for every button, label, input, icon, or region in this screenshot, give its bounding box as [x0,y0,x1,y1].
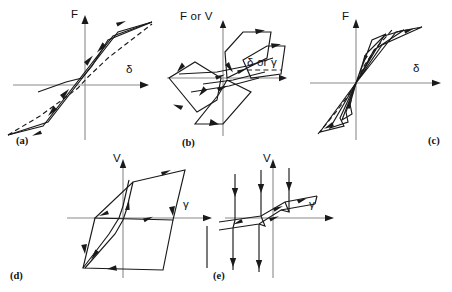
panel-a-y-axis-label: F [71,8,78,20]
panel-b-stiffness-degrading-hysteresis: F or V δ or γ (b) [155,0,305,150]
panel-a-x-axis-label: δ [126,63,133,75]
panel-d-main-loop [83,170,185,270]
panel-d-plot [55,150,235,292]
panel-c-pinched-origin-oriented-hysteresis: F δ (c) [300,0,452,150]
panel-c-x-axis-label: δ [413,62,420,74]
panel-e-label: (e) [213,270,225,281]
panel-a-backbone-dashed [8,24,152,135]
panel-d-inner-branch [83,180,133,268]
panel-c-direction-arrows [324,28,414,128]
panel-a-bilinear-hysteresis: F δ (a) [0,0,160,150]
panel-d-y-axis-label: V [113,152,121,164]
panel-b-lower-loop [169,62,221,112]
panel-c-upper-loops [356,27,422,83]
panel-a-plot [0,0,160,150]
panel-e-plot [225,150,415,292]
panel-b-y-axis-label: F or V [180,10,213,22]
hysteresis-figure: F δ (a) [0,0,452,292]
panel-b-label: (b) [182,137,195,148]
panel-b-plot [155,0,305,150]
panel-c-axes [310,19,441,140]
panel-d-x-axis-label: γ [183,198,189,210]
panel-e-x-axis-label: γ [309,198,315,210]
panel-a-label: (a) [16,135,28,146]
panel-c-label: (c) [428,135,440,146]
panel-e-slip-hysteresis: V γ (e) [225,150,415,292]
panel-d-label: (d) [10,270,23,281]
panel-b-x-axis-label: δ or γ [247,56,277,68]
panel-d-shear-hysteresis: V γ (d) [55,150,235,292]
panel-a-inner-branch [38,22,152,92]
panel-e-y-axis-label: V [263,152,271,164]
panel-c-y-axis-label: F [342,10,349,22]
panel-c-plot [300,0,452,150]
